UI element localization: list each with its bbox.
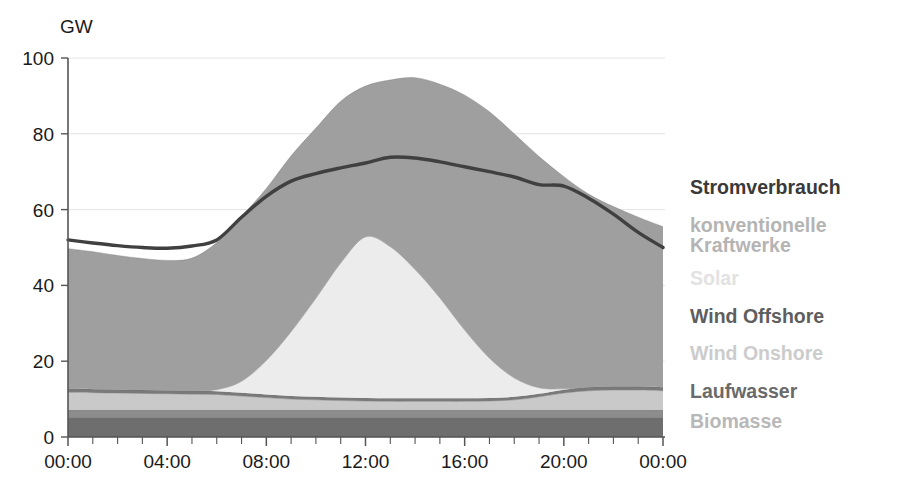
x-tick-label-3: 12:00 [342,451,390,472]
area-series-biomasse [68,417,663,437]
x-tick-label-1: 04:00 [143,451,191,472]
y-tick-label-20: 20 [33,351,54,372]
legend-item-kraftwerke[interactable]: Kraftwerke [690,234,791,256]
x-tick-label-0: 00:00 [44,451,92,472]
y-tick-label-80: 80 [33,124,54,145]
chart-container: 100806040200 00:0004:0008:0012:0016:0020… [0,0,919,503]
y-tick-label-40: 40 [33,275,54,296]
y-tick-label-60: 60 [33,200,54,221]
x-tick-label-6: 00:00 [639,451,687,472]
legend-item-wind-offshore[interactable]: Wind Offshore [690,305,824,327]
legend-item-stromverbrauch[interactable]: Stromverbrauch [690,176,841,198]
legend-item-wind-onshore[interactable]: Wind Onshore [690,342,823,364]
y-tick-label-0: 0 [43,427,54,448]
legend-item-laufwasser[interactable]: Laufwasser [690,380,798,402]
x-tick-label-2: 08:00 [243,451,291,472]
area-series-laufwasser [68,410,663,418]
y-axis-unit-label: GW [60,16,93,37]
x-tick-label-4: 16:00 [441,451,489,472]
legend-item-biomasse[interactable]: Biomasse [690,410,782,432]
energy-stacked-area-chart: 100806040200 00:0004:0008:0012:0016:0020… [0,0,919,503]
legend-item-konventionelle[interactable]: konventionelle [690,214,827,236]
y-tick-label-100: 100 [22,48,54,69]
legend-item-solar[interactable]: Solar [690,267,739,289]
x-tick-label-5: 20:00 [540,451,588,472]
